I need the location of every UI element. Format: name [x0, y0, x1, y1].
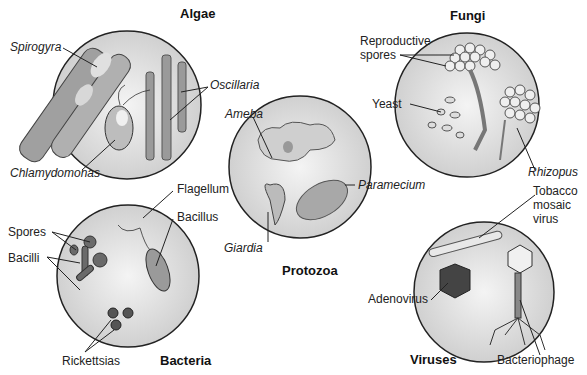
tmv-label-line3: virus — [533, 212, 558, 226]
tmv-label-line1: Tobacco — [533, 184, 578, 198]
flagellum-label: Flagellum — [177, 182, 229, 196]
protozoa-title: Protozoa — [282, 263, 338, 278]
reproductive-spores-label-line2: spores — [360, 48, 396, 62]
bacteriophage-label: Bacteriophage — [497, 353, 575, 367]
spores-label: Spores — [8, 225, 46, 239]
fungi-title: Fungi — [450, 8, 485, 23]
bacteria-panel: Flagellum Bacillus Spores Bacilli Ricket… — [8, 182, 229, 368]
adenovirus-label: Adenovirus — [368, 292, 428, 306]
spirogyra-label: Spirogyra — [10, 40, 62, 54]
yeast-label: Yeast — [372, 97, 402, 111]
bacteria-title: Bacteria — [160, 353, 212, 368]
rickettsias-label: Rickettsias — [62, 354, 120, 368]
algae-panel: Algae Spirogyra Oscillaria Chlamydomonas — [10, 6, 260, 180]
reproductive-spores-label-line1: Reproductive — [360, 34, 431, 48]
viruses-panel: Tobacco mosaic virus Adenovirus Bacterio… — [368, 184, 578, 367]
microorganisms-diagram: Algae Spirogyra Oscillaria Chlamydomonas… — [0, 0, 587, 375]
adenovirus-particle — [440, 264, 470, 298]
bacilli-label: Bacilli — [8, 251, 39, 265]
tmv-label-line2: mosaic — [533, 198, 571, 212]
giardia-label: Giardia — [224, 241, 263, 255]
oscillaria-label: Oscillaria — [210, 78, 260, 92]
bacillus-label: Bacillus — [177, 210, 218, 224]
fungi-panel: Fungi Reproductive spores Yeast Rhizopus — [360, 8, 578, 179]
chlamydomonas-label: Chlamydomonas — [10, 166, 100, 180]
paramecium-label: Paramecium — [358, 178, 425, 192]
viruses-title: Viruses — [410, 352, 457, 367]
rhizopus-label: Rhizopus — [528, 165, 578, 179]
protozoa-panel: Ameba Paramecium Giardia Protozoa — [224, 96, 425, 278]
algae-title: Algae — [180, 6, 215, 21]
ameba-label: Ameba — [224, 107, 263, 121]
